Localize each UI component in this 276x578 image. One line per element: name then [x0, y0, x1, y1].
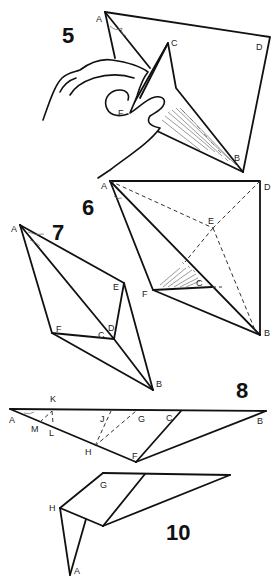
step6-label-f: F	[142, 289, 148, 299]
step8-label-a: A	[9, 415, 15, 425]
step10-edge-gh	[60, 473, 103, 508]
step8-label-j: J	[100, 414, 105, 424]
step8-label-l: L	[49, 428, 54, 438]
step8-label-h: H	[85, 447, 92, 457]
step6-label-b: B	[264, 328, 270, 338]
step-5: 5 A C D F B	[43, 12, 270, 178]
step7-label-e: E	[113, 282, 119, 292]
step8-label-f: F	[132, 451, 138, 461]
step7-label-c: C	[98, 330, 105, 340]
step8-top-edge	[10, 409, 266, 411]
step6-label-a: A	[101, 181, 107, 191]
step-10: 10 G H A	[49, 473, 230, 576]
step7-label-b: B	[156, 379, 162, 389]
step6-shading	[160, 262, 200, 287]
step-number-10: 10	[166, 520, 190, 545]
step8-angle-mark	[24, 412, 34, 414]
step7-label-d: D	[108, 323, 115, 333]
step10-tail-edge	[103, 475, 230, 526]
step8-edge-fb	[136, 411, 266, 462]
step10-label-a: A	[74, 566, 80, 576]
step5-label-d: D	[256, 42, 263, 52]
step5-label-a: A	[96, 14, 102, 24]
step7-label-f: F	[56, 324, 62, 334]
step7-label-a: A	[11, 224, 17, 234]
step8-label-b: B	[257, 416, 263, 426]
step-number-6: 6	[82, 195, 94, 220]
step5-label-b: B	[234, 153, 240, 163]
step-number-5: 5	[62, 23, 74, 48]
step6-label-c: C	[196, 278, 203, 288]
step8-label-g: G	[138, 414, 145, 424]
step-number-8: 8	[236, 378, 248, 403]
step10-neck-left	[60, 508, 70, 575]
step8-crease-kl	[52, 411, 53, 423]
step5-label-c: C	[171, 38, 178, 48]
step10-label-g: G	[100, 480, 107, 490]
step5-lower-edge	[155, 130, 243, 172]
origami-diagram: 5 A C D F B 6	[0, 0, 276, 578]
step-7: 7 A E D C F B	[11, 220, 162, 390]
step8-label-m: M	[31, 424, 39, 434]
step10-label-h: H	[49, 503, 56, 513]
step10-edge-h-body	[60, 508, 103, 526]
step-number-7: 7	[52, 220, 64, 245]
step6-crease-eb	[213, 228, 255, 330]
step6-crease-de	[213, 181, 260, 228]
step8-crease-mk	[40, 411, 52, 422]
step8-label-c: C	[166, 413, 173, 423]
step5-label-f: F	[118, 108, 124, 118]
step8-label-k: K	[50, 394, 56, 404]
step7-fold-db	[114, 339, 153, 390]
step6-fold-fc	[153, 287, 212, 290]
step6-label-d: D	[264, 182, 271, 192]
step6-crease-ec	[185, 228, 213, 262]
step8-edge-af	[10, 409, 136, 462]
step6-label-e: E	[208, 216, 214, 226]
step-6: 6 A D E C F B	[82, 181, 271, 338]
step-8: 8 K A M L J G C B H F	[9, 378, 266, 462]
step10-top-edge	[103, 473, 230, 475]
